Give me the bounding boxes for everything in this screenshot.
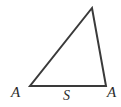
angle-label-right: A <box>107 85 116 100</box>
triangle-outline <box>30 8 106 86</box>
geometry-figure: A A S <box>0 0 121 107</box>
side-label-base: S <box>63 89 70 103</box>
angle-label-left: A <box>11 85 20 100</box>
